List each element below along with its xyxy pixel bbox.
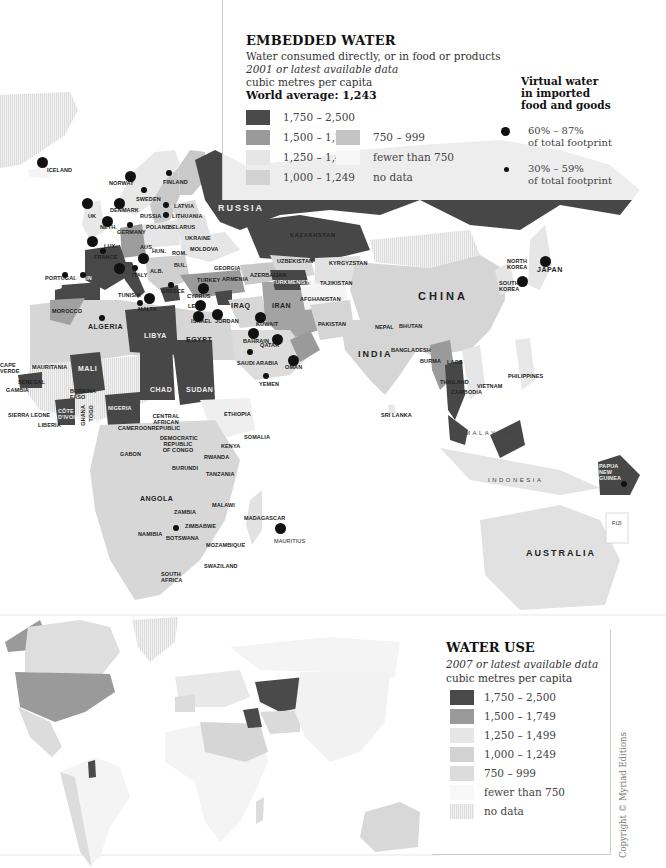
label-cote-divoire: CÔTE D'IVOIRE <box>58 408 78 420</box>
virtual-water-dot-small <box>168 282 174 288</box>
label-kenya: KENYA <box>221 443 240 449</box>
virtual-water-dot-small <box>137 300 143 306</box>
label-sudan: SUDAN <box>186 387 213 393</box>
legend-swatch-fewer-than-750 <box>336 150 360 165</box>
label-lux: LUX. <box>104 243 117 249</box>
label-rwanda: RWANDA <box>204 454 229 460</box>
label-mozambique: MOZAMBIQUE <box>206 542 245 548</box>
virtual-water-dot-large <box>255 312 266 323</box>
virtual-water-dot-small <box>263 373 269 379</box>
label-germany: GERMANY <box>117 229 146 235</box>
virtual-water-dot-large <box>272 334 283 345</box>
legend-label: 1,250 – 1,499 <box>484 729 556 741</box>
label-alb: ALB. <box>150 268 163 274</box>
philippines-region <box>515 338 535 390</box>
legend-label: 1,500 – 1,749 <box>484 710 556 722</box>
label-france: FRANCE <box>94 254 118 260</box>
water-use-data-year: 2007 or latest available data <box>446 658 598 670</box>
label-namibia: NAMIBIA <box>138 531 162 537</box>
label-tajikistan: TAJIKISTAN <box>320 280 353 286</box>
russia-region <box>230 637 400 677</box>
label-italy: ITALY <box>132 272 147 278</box>
virtual-water-dot-large <box>87 236 98 247</box>
label-armenia: ARMENIA <box>222 276 248 282</box>
legend-swatch-1000-1249 <box>450 747 474 762</box>
virtual-water-title-line: Virtual water <box>521 75 598 87</box>
fiji-inset <box>606 513 628 543</box>
virtual-water-dot-large <box>114 263 125 274</box>
label-angola: ANGOLA <box>140 496 173 502</box>
label-burkina-faso: BURKINA FASO <box>70 388 94 400</box>
label-russia: RUSSIA <box>218 205 264 211</box>
legend-swatch-1750-2500 <box>450 690 474 705</box>
label-greece: GREECE <box>161 288 185 294</box>
virtual-water-dot-small <box>163 212 169 218</box>
virtual-water-dot-large <box>198 283 209 294</box>
legend-swatch-1750-2500 <box>246 110 270 125</box>
legend-swatch-no-data <box>450 804 474 819</box>
label-australia: AUSTRALIA <box>526 550 596 556</box>
label-ethiopia: ETHIOPIA <box>224 411 251 417</box>
label-philippines: PHILIPPINES <box>508 373 543 379</box>
legend-swatch-1500-1749 <box>450 709 474 724</box>
label-algeria: ALGERIA <box>88 324 123 330</box>
virtual-water-dot-small <box>62 272 68 278</box>
australia-region <box>360 802 420 852</box>
label-burma: BURMA <box>420 358 441 364</box>
label-bul: BUL. <box>174 262 187 268</box>
label-burundi: BURUNDI <box>172 465 198 471</box>
label-latvia: LATVIA <box>174 203 194 209</box>
label-aus: AUS. <box>140 244 154 250</box>
label-zambia: ZAMBIA <box>174 509 196 515</box>
label-belarus: BELARUS <box>168 224 195 230</box>
label-thailand: THAILAND <box>440 379 469 385</box>
label-togo: TOGO <box>88 405 94 422</box>
label-india: INDIA <box>358 351 393 357</box>
guyana-region <box>88 760 96 778</box>
label-tunisia: TUNISIA <box>118 292 141 298</box>
virtual-water-title-line: food and goods <box>521 99 611 111</box>
iberia-region <box>175 694 195 712</box>
virtual-water-dot-large <box>37 157 48 168</box>
label-south-africa: SOUTH AFRICA <box>161 571 183 583</box>
label-sierra-leone: SIERRA LEONE <box>8 412 50 418</box>
label-ghana: GHANA <box>80 405 86 426</box>
label-egypt: EGYPT <box>186 337 212 343</box>
label-liberia: LIBERIA <box>38 422 61 428</box>
virtual-water-title-line: in imported <box>521 87 590 99</box>
virtual-water-dot-large <box>193 311 204 322</box>
label-chad: CHAD <box>150 387 172 393</box>
label-finland: FINLAND <box>163 179 188 185</box>
label-cambodia: CAMBODIA <box>451 389 482 395</box>
virtual-water-legend-label: of total footprint <box>528 137 612 149</box>
virtual-water-dot-large <box>517 276 528 287</box>
label-sweden: SWEDEN <box>136 196 161 202</box>
label-somalia: SOMALIA <box>244 434 270 440</box>
label-car: CENTRAL AFRICAN REPUBLIC <box>144 413 188 431</box>
indonesia-region <box>440 448 600 495</box>
label-nigeria: NIGERIA <box>108 405 132 411</box>
label-north-korea: NORTH KOREA <box>507 258 529 270</box>
label-tanzania: TANZANIA <box>206 471 235 477</box>
label-drc: DEMOCRATIC REPUBLIC OF CONGO <box>160 435 196 453</box>
label-botswana: BOTSWANA <box>166 535 199 541</box>
label-fiji: FIJI <box>612 520 622 526</box>
virtual-water-dot-small <box>166 170 172 176</box>
virtual-water-dot-small <box>132 265 138 271</box>
copyright-notice: Copyright © Myriad Editions <box>618 732 628 858</box>
label-uk: UK <box>88 213 96 219</box>
label-madagascar: MADAGASCAR <box>244 515 285 521</box>
virtual-water-dot-small <box>247 349 253 355</box>
water-use-legend: WATER USE 2007 or latest available data … <box>432 630 611 855</box>
world-average: World average: 1,243 <box>246 89 377 102</box>
virtual-water-dot-large <box>144 293 155 304</box>
madagascar-region <box>256 797 264 824</box>
label-zimbabwe: ZIMBABWE <box>185 523 216 529</box>
virtual-water-dot-large <box>82 198 93 209</box>
sudan-region <box>172 340 215 405</box>
label-cape-verde: CAPE VERDE <box>0 362 14 374</box>
iran-region <box>260 710 300 734</box>
label-mauritius: MAURITIUS <box>274 538 305 544</box>
legend-label: 1,000 – 1,249 <box>484 748 556 760</box>
legend-swatch-750-999 <box>450 766 474 781</box>
